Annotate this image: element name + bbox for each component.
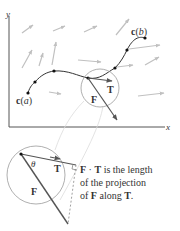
inset-T-line [21,154,76,165]
c-a-label: c(a) [16,95,32,107]
caption-line-2: of the projection [80,176,180,189]
y-axis-label: y [5,9,10,19]
inset-T-label: T [54,163,61,174]
T-vector [88,78,112,81]
x-axis-label: x [165,122,170,132]
caption-line-1: F · T is the length [80,163,180,176]
T-label: T [107,84,114,95]
F-label: F [91,94,97,105]
caption: F · T is the length of the projection of… [80,163,180,202]
c-b-label: c(b) [131,26,147,38]
projection-dashed-line [68,165,76,224]
theta-label: θ [31,159,36,169]
inset-F-label: F [31,186,37,197]
caption-line-3: of F along T. [80,189,180,202]
inset-base-point [19,152,22,155]
